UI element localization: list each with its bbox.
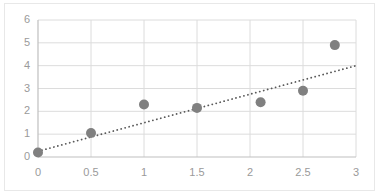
y-tick-label-0: 0 — [14, 151, 30, 162]
x-tick-label-1.5: 1.5 — [182, 167, 212, 178]
data-point-4 — [256, 97, 266, 107]
y-tick-label-5: 5 — [14, 37, 30, 48]
y-tick-label-3: 3 — [14, 83, 30, 94]
x-tick-label-0.5: 0.5 — [76, 167, 106, 178]
data-point-3 — [192, 103, 202, 113]
data-points — [33, 40, 340, 157]
chart-container: 0123456 00.511.522.53 — [0, 0, 379, 196]
x-tick-label-3: 3 — [341, 167, 371, 178]
x-tick-label-2.5: 2.5 — [288, 167, 318, 178]
data-point-6 — [330, 40, 340, 50]
data-point-0 — [33, 147, 43, 157]
x-tick-label-2: 2 — [235, 167, 265, 178]
data-point-2 — [139, 99, 149, 109]
y-tick-label-1: 1 — [14, 128, 30, 139]
data-point-5 — [298, 86, 308, 96]
data-point-1 — [86, 128, 96, 138]
y-tick-label-6: 6 — [14, 14, 30, 25]
y-tick-label-4: 4 — [14, 60, 30, 71]
y-tick-label-2: 2 — [14, 105, 30, 116]
x-tick-label-0: 0 — [23, 167, 53, 178]
x-tick-label-1: 1 — [129, 167, 159, 178]
